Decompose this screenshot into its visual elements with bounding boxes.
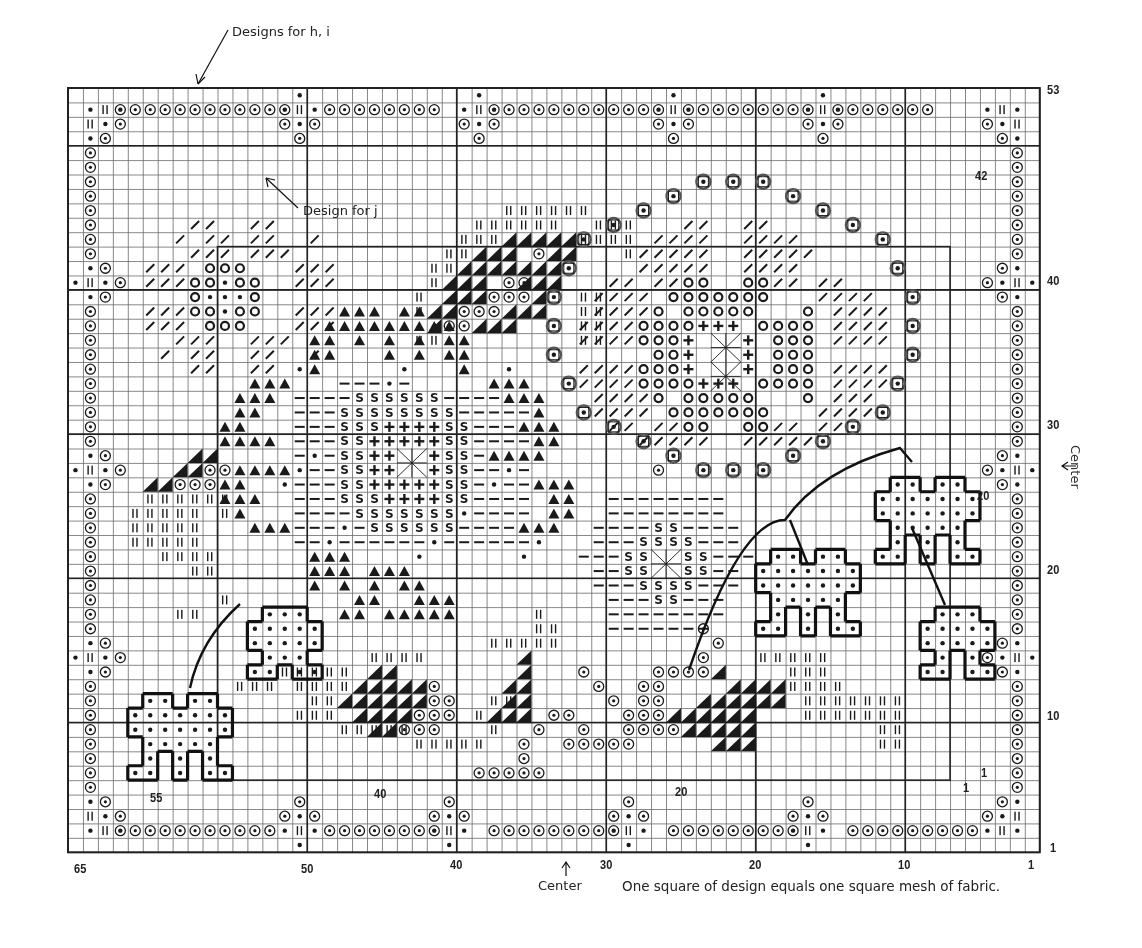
rtick-40: 40 [1047, 273, 1059, 288]
tick-20: 20 [749, 857, 761, 872]
tick-50: 50 [301, 861, 313, 876]
inner-1b: 1 [963, 780, 969, 795]
tick-1: 1 [1028, 857, 1034, 872]
inner-20b: 20 [675, 784, 687, 799]
needlepoint-chart-grid [0, 0, 1142, 948]
tick-30: 30 [600, 857, 612, 872]
tick-40: 40 [450, 857, 462, 872]
rtick-1: 1 [1050, 840, 1056, 855]
rtick-53: 53 [1047, 82, 1059, 97]
tick-65: 65 [74, 861, 86, 876]
inner-20: 20 [977, 488, 989, 503]
inner-1a: 1 [981, 765, 987, 780]
tick-10: 10 [898, 857, 910, 872]
inner-40: 40 [374, 786, 386, 801]
designs-hi-label: Designs for h, i [232, 24, 330, 39]
inner-55: 55 [150, 790, 162, 805]
design-j-label: Design for j [303, 203, 378, 218]
center-right-label: Center [1068, 445, 1083, 489]
rtick-10: 10 [1047, 708, 1059, 723]
rtick-20: 20 [1047, 562, 1059, 577]
rtick-30: 30 [1047, 417, 1059, 432]
inner-42: 42 [975, 168, 987, 183]
footnote-text: One square of design equals one square m… [622, 878, 1000, 894]
center-bottom-label: Center [538, 878, 582, 893]
